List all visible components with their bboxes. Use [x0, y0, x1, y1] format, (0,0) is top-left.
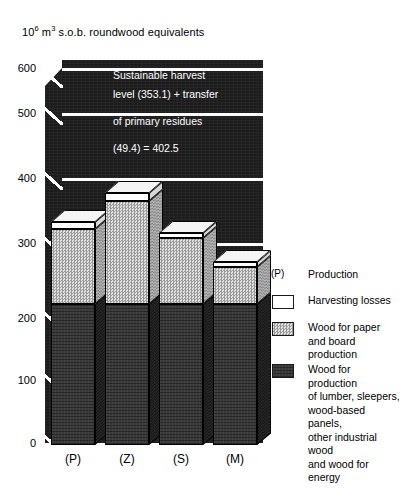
- legend-swatch-white: [272, 295, 294, 309]
- legend-label-paper-board-line1: Wood for paper: [308, 321, 400, 335]
- bar-S-segment-gray: [159, 238, 203, 304]
- bar-Z-segment-dark: [105, 304, 149, 445]
- legend-production-label: Production: [308, 268, 400, 282]
- bar-S-segment-white: [159, 233, 203, 238]
- xtick-label-P: (P): [53, 452, 93, 466]
- xtick-label-S: (S): [161, 452, 201, 466]
- axis-unit-caption: 106 m3 s.o.b. roundwood equivalents: [22, 24, 204, 38]
- legend-swatch-dark: [272, 364, 294, 378]
- unit-rest: s.o.b. roundwood equivalents: [55, 26, 204, 38]
- annotation-line-1: Sustainable harvest: [113, 66, 205, 85]
- legend-item-production: (P) Production: [272, 268, 400, 284]
- bar-M-segment-white: [213, 262, 257, 267]
- chart-root: 106 m3 s.o.b. roundwood equivalents: [0, 0, 401, 493]
- legend-swatch-gray: [272, 322, 294, 336]
- ytick-label-0: 0: [2, 437, 36, 449]
- annotation-line-3: of primary residues: [113, 112, 202, 131]
- ytick-label-100: 100: [2, 374, 36, 386]
- annotation-line-2: level (353.1) + transfer: [113, 85, 218, 104]
- bar-P-segment-white: [51, 222, 95, 229]
- legend-label-lumber-line1: Wood for production: [308, 363, 400, 390]
- legend: (P) Production Harvesting losses Wood fo…: [272, 268, 400, 444]
- annotation-line-4: (49.4) = 402.5: [113, 139, 179, 158]
- legend-production-code: (P): [271, 268, 284, 279]
- ytick-label-300: 300: [2, 237, 36, 249]
- bar-S-segment-dark: [159, 304, 203, 445]
- unit-mid: m: [39, 26, 51, 38]
- xtick-label-M: (M): [215, 452, 255, 466]
- bar-P-segment-gray: [51, 229, 95, 304]
- legend-label-lumber-line2: of lumber, sleepers,: [308, 390, 400, 404]
- bar-M: [213, 62, 257, 445]
- legend-label-harvesting-losses: Harvesting losses: [308, 294, 400, 308]
- bar-P-segment-dark: [51, 304, 95, 445]
- plot-area: Sustainable harvest level (353.1) + tran…: [45, 60, 263, 445]
- ytick-label-500: 500: [2, 107, 36, 119]
- xtick-label-Z: (Z): [107, 452, 147, 466]
- ytick-label-600: 600: [2, 62, 36, 74]
- legend-label-paper-board-line2: and board production: [308, 335, 400, 362]
- bar-M-segment-dark: [213, 304, 257, 445]
- bar-Z-segment-gray: [105, 201, 149, 304]
- legend-item-harvesting-losses: Harvesting losses: [272, 294, 400, 312]
- legend-label-lumber-line4: other industrial wood: [308, 431, 400, 458]
- bar-Z-segment-white: [105, 193, 149, 201]
- legend-label-lumber-line5: and wood for energy: [308, 458, 400, 485]
- legend-label-lumber-line3: wood-based panels,: [308, 404, 400, 431]
- bar-P: [51, 62, 95, 445]
- bar-M-segment-gray: [213, 267, 257, 304]
- legend-item-lumber-energy: Wood for production of lumber, sleepers,…: [272, 363, 400, 435]
- ytick-label-200: 200: [2, 312, 36, 324]
- legend-item-paper-board: Wood for paper and board production: [272, 321, 400, 351]
- ytick-label-400: 400: [2, 172, 36, 184]
- unit-base: 10: [22, 26, 34, 38]
